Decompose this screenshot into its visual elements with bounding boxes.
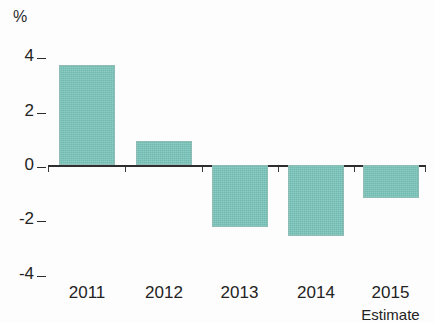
x-axis-sublabel-2015: Estimate <box>361 306 419 323</box>
x-axis-label-2013: 2013 <box>221 283 259 303</box>
x-axis-tick-labels: 20112012201320142015Estimate <box>0 0 434 323</box>
bar-chart: % 420-2-4 20112012201320142015Estimate <box>0 0 434 323</box>
x-axis-label-2015: 2015 <box>372 283 410 303</box>
x-axis-label-2012: 2012 <box>145 283 183 303</box>
x-axis-label-2011: 2011 <box>69 283 106 303</box>
x-axis-label-2014: 2014 <box>297 283 335 303</box>
